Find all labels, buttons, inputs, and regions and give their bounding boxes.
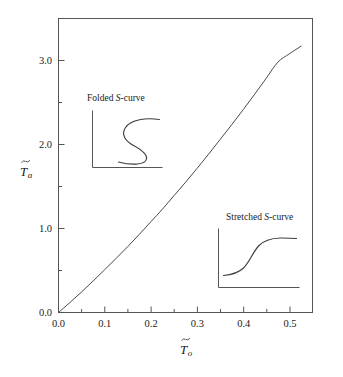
x-tick-label-4: 0.4 — [237, 318, 251, 329]
inset-stretched-prefix: Stretched — [226, 212, 264, 222]
svg-text:Ta: Ta — [20, 164, 33, 180]
y-tick-label-0: 0.0 — [39, 307, 52, 318]
y-axis-title-sub: a — [28, 170, 33, 180]
inset-stretched-suffix: -curve — [269, 212, 293, 222]
inset-folded-suffix: -curve — [121, 93, 145, 103]
inset-stretched-s-curve-label: Stretched S-curve — [226, 212, 293, 222]
x-tick-label-0: 0.0 — [52, 318, 65, 329]
inset-folded-s-curve-label: Folded S-curve — [87, 93, 145, 103]
svg-text:To: To — [180, 342, 193, 358]
y-axis-title-tilde — [22, 160, 30, 162]
figure-container: 0.0 0.1 0.2 0.3 0.4 0.5 0.0 1.0 2.0 3.0 … — [0, 0, 343, 377]
inset-stretched-curve — [224, 238, 297, 276]
chart-canvas: 0.0 0.1 0.2 0.3 0.4 0.5 0.0 1.0 2.0 3.0 … — [0, 0, 343, 377]
x-tick-label-2: 0.2 — [145, 318, 158, 329]
x-axis-title: To — [180, 338, 193, 358]
inset-folded-s-curve: Folded S-curve — [87, 93, 163, 168]
x-axis-title-tilde — [182, 338, 190, 340]
data-curve-ignition-boundary — [59, 46, 301, 312]
inset-folded-prefix: Folded — [87, 93, 116, 103]
plot-frame — [59, 19, 313, 313]
y-tick-label-1: 1.0 — [39, 223, 52, 234]
inset-folded-curve — [119, 119, 160, 164]
inset-stretched-s-curve: Stretched S-curve — [219, 212, 300, 288]
y-tick-label-3: 3.0 — [39, 55, 52, 66]
x-axis-title-sub: o — [188, 348, 193, 358]
x-tick-label-1: 0.1 — [98, 318, 111, 329]
x-tick-label-3: 0.3 — [191, 318, 204, 329]
inset-stretched-axes — [219, 229, 300, 288]
y-tick-label-2: 2.0 — [39, 139, 52, 150]
y-axis-title: Ta — [20, 160, 33, 180]
x-tick-label-5: 0.5 — [283, 318, 296, 329]
